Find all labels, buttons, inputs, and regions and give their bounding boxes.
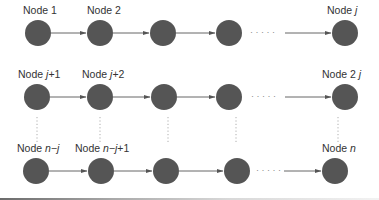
node-n-minus-j-plus-2 — [153, 158, 179, 184]
label-node-j: Node j — [327, 4, 358, 16]
ellipsis-r3: · · · · · — [256, 165, 281, 175]
row-3: · · · · · Node n−j Node n−j+1 Node n — [17, 142, 356, 184]
label-node-j-plus-2: Node j+2 — [82, 68, 125, 80]
node-j-plus-2 — [87, 84, 113, 110]
node-4 — [216, 20, 242, 46]
node-j — [332, 20, 358, 46]
row-1: · · · · · Node 1 Node 2 Node j — [23, 4, 358, 46]
label-node-n: Node n — [322, 142, 356, 154]
label-node-1: Node 1 — [23, 4, 57, 16]
vertical-dotted-connectors — [37, 117, 338, 142]
label-node-n-minus-j-plus-1: Node n−j+1 — [75, 142, 129, 154]
bottom-rule — [0, 198, 379, 200]
row-2: · · · · · Node j+1 Node j+2 Node 2 j — [18, 68, 362, 110]
node-n — [322, 158, 348, 184]
label-node-2j: Node 2 j — [322, 68, 362, 80]
node-n-minus-j — [23, 158, 49, 184]
node-j-plus-1 — [24, 84, 50, 110]
node-n-minus-j-plus-3 — [224, 158, 250, 184]
label-node-j-plus-1: Node j+1 — [18, 68, 61, 80]
node-grid-diagram: · · · · · Node 1 Node 2 Node j · · · · ·… — [0, 0, 379, 200]
node-n-minus-j-plus-1 — [88, 158, 114, 184]
node-3 — [150, 20, 176, 46]
ellipsis-r2: · · · · · — [251, 91, 276, 101]
node-2j — [332, 84, 358, 110]
node-j-plus-3 — [151, 84, 177, 110]
node-j-plus-4 — [216, 84, 242, 110]
ellipsis-r1: · · · · · — [250, 27, 275, 37]
label-node-2: Node 2 — [87, 4, 121, 16]
node-1 — [25, 20, 51, 46]
node-2 — [87, 20, 113, 46]
label-node-n-minus-j: Node n−j — [17, 142, 60, 154]
